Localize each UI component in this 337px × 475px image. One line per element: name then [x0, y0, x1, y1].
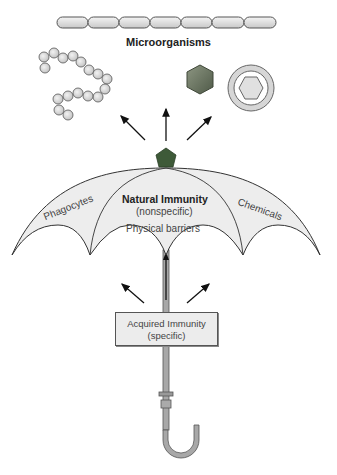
specific-label: (specific)	[116, 330, 217, 342]
hexagon-virus-icon	[187, 65, 213, 94]
acquired-immunity-label: Acquired Immunity	[116, 318, 217, 330]
bacilli-chain-icon	[57, 17, 276, 28]
cocci-chain-icon	[39, 48, 112, 120]
microorganisms-label: Microorganisms	[126, 36, 211, 48]
protection-arrows-top	[121, 109, 211, 141]
natural-immunity-label: Natural Immunity	[122, 193, 208, 205]
umbrella-tip-icon	[156, 148, 176, 167]
acquired-immunity-box: Acquired Immunity (specific)	[115, 312, 218, 346]
nonspecific-label: (nonspecific)	[136, 206, 193, 217]
physical-barriers-label: Physical barriers	[126, 223, 200, 234]
enveloped-virus-icon	[228, 65, 274, 111]
immunity-umbrella-diagram	[0, 0, 337, 475]
